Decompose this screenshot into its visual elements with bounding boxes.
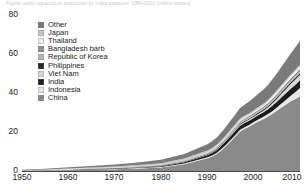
legend-swatch-thailand bbox=[38, 38, 44, 44]
legend-item-china: China bbox=[38, 94, 108, 102]
aquaculture-stacked-area-chart: Figure: world aquaculture production by … bbox=[0, 0, 307, 186]
x-tick-1970: 1970 bbox=[105, 172, 124, 183]
legend-swatch-bangladesh-barb bbox=[38, 46, 44, 52]
y-axis: 80 60 40 20 0 bbox=[0, 0, 20, 186]
x-tick-2000: 2000 bbox=[244, 172, 263, 183]
legend-swatch-other bbox=[38, 22, 44, 28]
legend-swatch-philippines bbox=[38, 63, 44, 69]
x-tick-1960: 1960 bbox=[59, 172, 78, 183]
legend-swatch-japan bbox=[38, 30, 44, 36]
y-tick-40: 40 bbox=[9, 88, 18, 97]
chart-legend: Other Japan Thailand Bangladesh barb Rep… bbox=[38, 21, 108, 102]
legend-swatch-republic-of-korea bbox=[38, 54, 44, 60]
legend-swatch-china bbox=[38, 95, 44, 101]
legend-label-china: China bbox=[48, 94, 68, 102]
legend-swatch-india bbox=[38, 79, 44, 85]
x-tick-1980: 1980 bbox=[152, 172, 171, 183]
chart-title-clipped: Figure: world aquaculture production by … bbox=[6, 0, 286, 7]
x-axis: 1950 1960 1970 1980 1990 2000 2010 bbox=[0, 172, 307, 186]
y-tick-60: 60 bbox=[9, 49, 18, 58]
x-tick-1990: 1990 bbox=[198, 172, 217, 183]
legend-swatch-viet-nam bbox=[38, 71, 44, 77]
x-tick-1950: 1950 bbox=[13, 172, 32, 183]
y-tick-20: 20 bbox=[9, 127, 18, 136]
legend-swatch-indonesia bbox=[38, 87, 44, 93]
x-tick-2010: 2010 bbox=[283, 172, 302, 183]
y-tick-80: 80 bbox=[9, 10, 18, 19]
